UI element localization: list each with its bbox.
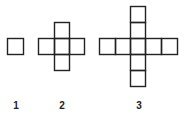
figure-2-label: 2: [55, 100, 69, 111]
figure-3-label: 3: [132, 100, 146, 111]
figure-1-label: 1: [9, 100, 23, 111]
figure-3: [100, 7, 178, 87]
pattern-diagram: [0, 0, 188, 113]
figure-1: [8, 39, 24, 55]
figure-2: [39, 23, 85, 71]
